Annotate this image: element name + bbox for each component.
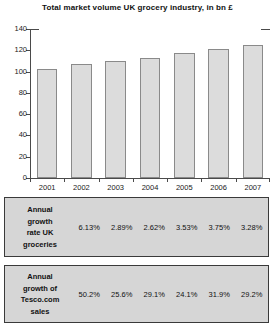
y-axis-tick-label: 0	[23, 173, 27, 182]
x-axis-tick	[167, 178, 168, 182]
y-axis-tick-label: 60	[19, 109, 27, 118]
table-tesco-sales-growth: Annualgrowth ofTesco.comsales 50.2%25.6%…	[4, 265, 269, 323]
row-label-line: rate UK	[7, 227, 73, 239]
chart-figure: Total market volume UK grocery industry,…	[0, 0, 275, 327]
bar-series	[30, 29, 270, 178]
bar	[208, 49, 229, 178]
table-cell: 3.53%	[176, 223, 197, 232]
x-axis-ticks	[30, 178, 270, 182]
x-axis-tick	[133, 178, 134, 182]
row-label-line: sales	[7, 306, 73, 318]
y-axis-tick-label: 140	[14, 24, 27, 33]
row-values-tesco-sales: 50.2%25.6%29.1%24.1%31.9%29.2%	[73, 266, 268, 322]
x-axis-tick	[64, 178, 65, 182]
x-axis-label: 2006	[210, 183, 227, 192]
x-axis-tick	[99, 178, 100, 182]
table-cell: 2.62%	[144, 223, 165, 232]
x-axis-tick	[201, 178, 202, 182]
chart-title: Total market volume UK grocery industry,…	[0, 3, 275, 12]
x-axis-labels: 2001200220032004200520062007	[30, 183, 270, 197]
bar	[71, 64, 92, 178]
table-cell: 3.28%	[241, 223, 262, 232]
bar	[243, 45, 264, 178]
table-cell: 25.6%	[111, 290, 132, 299]
row-label-line: Tesco.com	[7, 294, 73, 306]
table-cell: 50.2%	[79, 290, 100, 299]
x-axis-label: 2001	[39, 183, 56, 192]
table-cell: 29.1%	[144, 290, 165, 299]
bar-chart: 020406080100120140 200120022003200420052…	[0, 16, 275, 191]
row-values-growth-rate: 6.13%2.89%2.62%3.53%3.75%3.28%	[73, 198, 268, 256]
y-axis-tick-label: 100	[14, 67, 27, 76]
x-axis-tick	[30, 178, 31, 182]
x-axis-label: 2004	[142, 183, 159, 192]
row-label-line: groceries	[7, 239, 73, 251]
table-cell: 24.1%	[176, 290, 197, 299]
row-label-line: growth	[7, 216, 73, 228]
x-axis-label: 2007	[245, 183, 262, 192]
x-axis-tick	[236, 178, 237, 182]
bar	[37, 69, 58, 178]
x-axis-label: 2003	[107, 183, 124, 192]
table-cell: 6.13%	[79, 223, 100, 232]
bar	[174, 53, 195, 178]
x-axis-label: 2005	[176, 183, 193, 192]
plot-area: 020406080100120140 200120022003200420052…	[30, 29, 270, 178]
x-axis-label: 2002	[73, 183, 90, 192]
y-axis-tick-label: 80	[19, 88, 27, 97]
row-label-growth-rate: Annualgrowthrate UKgroceries	[5, 204, 73, 250]
y-axis-tick-label: 120	[14, 45, 27, 54]
row-label-tesco-sales: Annualgrowth ofTesco.comsales	[5, 271, 73, 317]
table-cell: 31.9%	[209, 290, 230, 299]
table-cell: 29.2%	[241, 290, 262, 299]
y-axis-tick-label: 20	[19, 152, 27, 161]
table-cell: 3.75%	[209, 223, 230, 232]
y-axis-tick-label: 40	[19, 130, 27, 139]
bar	[105, 61, 126, 178]
table-cell: 2.89%	[111, 223, 132, 232]
x-axis-tick	[269, 178, 270, 182]
row-label-line: Annual	[7, 204, 73, 216]
row-label-line: growth of	[7, 283, 73, 295]
bar	[140, 58, 161, 178]
row-label-line: Annual	[7, 271, 73, 283]
table-annual-growth-rate: Annualgrowthrate UKgroceries 6.13%2.89%2…	[4, 197, 269, 257]
